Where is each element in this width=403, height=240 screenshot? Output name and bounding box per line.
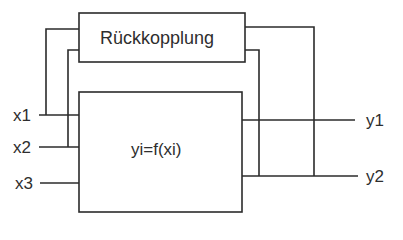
- feedback-line-to-x2: [68, 50, 79, 147]
- input-label-x2: x2: [13, 139, 31, 156]
- feedback-block-label: Rückkopplung: [100, 29, 214, 47]
- output-label-y1: y1: [366, 112, 384, 129]
- feedback-line-from-y2: [245, 50, 259, 176]
- feedback-line-to-x1: [46, 29, 79, 115]
- system-block-label: yi=f(xi): [131, 141, 182, 158]
- input-label-x3: x3: [15, 175, 33, 192]
- output-label-y2: y2: [366, 168, 384, 185]
- input-label-x1: x1: [13, 107, 31, 124]
